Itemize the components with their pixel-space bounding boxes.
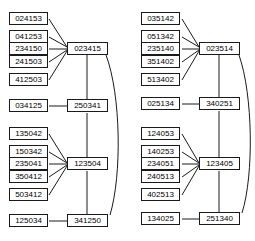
edge-l3-1 bbox=[49, 134, 67, 163]
node-leaf[interactable]: 034125 bbox=[9, 99, 48, 112]
edge-r1-5 bbox=[182, 51, 199, 80]
edge-r3-1 bbox=[182, 134, 199, 163]
node-leaf[interactable]: 135042 bbox=[9, 127, 48, 140]
node-leaf[interactable]: 402513 bbox=[141, 188, 180, 201]
edge-l1-1 bbox=[49, 19, 67, 47]
node-leaf[interactable]: 025134 bbox=[141, 97, 180, 110]
edge-l3-5 bbox=[49, 166, 67, 195]
edge-r3-4 bbox=[182, 165, 199, 177]
node-leaf[interactable]: 350412 bbox=[9, 170, 48, 183]
edge-l1-4 bbox=[49, 50, 67, 62]
node-leaf[interactable]: 234150 bbox=[9, 42, 48, 55]
edge-l-arc bbox=[106, 55, 118, 215]
node-leaf[interactable]: 234051 bbox=[141, 157, 180, 170]
diagram-canvas: 024153 041253 234150 241503 412503 02341… bbox=[0, 0, 255, 241]
node-hub[interactable]: 023415 bbox=[67, 42, 108, 55]
edge-r1-4 bbox=[182, 50, 199, 62]
edge-l1-2 bbox=[49, 37, 67, 47]
edge-l3-4 bbox=[49, 165, 67, 177]
node-leaf[interactable]: 351402 bbox=[141, 55, 180, 68]
node-leaf[interactable]: 513402 bbox=[141, 73, 180, 86]
node-hub[interactable]: 250341 bbox=[67, 99, 108, 112]
node-leaf[interactable]: 503412 bbox=[9, 188, 48, 201]
edge-r-arc bbox=[239, 55, 250, 213]
node-hub[interactable]: 340251 bbox=[199, 97, 240, 110]
node-leaf[interactable]: 124053 bbox=[141, 127, 180, 140]
node-leaf[interactable]: 035142 bbox=[141, 12, 180, 25]
node-hub[interactable]: 123504 bbox=[67, 157, 108, 170]
node-leaf[interactable]: 134025 bbox=[141, 212, 180, 225]
node-leaf[interactable]: 241503 bbox=[9, 55, 48, 68]
node-leaf[interactable]: 024153 bbox=[9, 12, 48, 25]
edge-r3-2 bbox=[182, 152, 199, 163]
edge-l1-5 bbox=[49, 51, 67, 80]
node-hub[interactable]: 023514 bbox=[199, 42, 240, 55]
node-leaf[interactable]: 125034 bbox=[9, 214, 48, 227]
node-leaf[interactable]: 240513 bbox=[141, 170, 180, 183]
node-hub[interactable]: 341250 bbox=[67, 214, 108, 227]
node-hub[interactable]: 123405 bbox=[199, 157, 240, 170]
edge-r1-1 bbox=[182, 19, 199, 47]
node-leaf[interactable]: 235140 bbox=[141, 42, 180, 55]
edge-r1-2 bbox=[182, 37, 199, 47]
node-leaf[interactable]: 412503 bbox=[9, 73, 48, 86]
node-hub[interactable]: 251340 bbox=[199, 212, 240, 225]
edge-l3-2 bbox=[49, 152, 67, 163]
edge-r3-5 bbox=[182, 166, 199, 195]
node-leaf[interactable]: 235041 bbox=[9, 157, 48, 170]
